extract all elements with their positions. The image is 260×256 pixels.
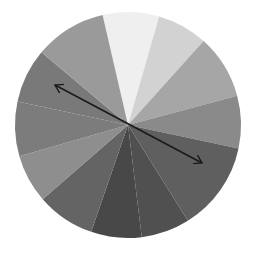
grayscale-pie-diagram: [0, 0, 260, 256]
pie-wedges: [15, 12, 241, 238]
